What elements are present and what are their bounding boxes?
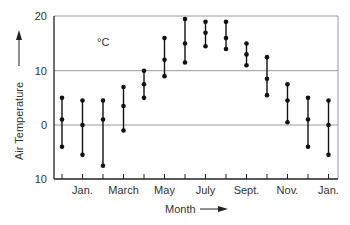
max-point	[121, 85, 126, 90]
range-bar	[101, 98, 106, 168]
mean-point	[306, 117, 311, 122]
min-point	[183, 60, 188, 65]
mean-point	[244, 52, 249, 57]
mean-point	[101, 117, 106, 122]
y-tick-label: 10	[35, 173, 47, 185]
mean-point	[203, 30, 208, 35]
range-bar	[265, 55, 270, 98]
max-point	[60, 96, 65, 101]
max-point	[183, 17, 188, 22]
min-point	[101, 163, 106, 168]
mean-point	[326, 123, 331, 128]
x-axis-title: Month	[165, 203, 228, 215]
x-tick-label: July	[196, 184, 216, 196]
min-point	[142, 96, 147, 101]
max-point	[142, 68, 147, 73]
min-point	[121, 128, 126, 133]
range-bar	[203, 20, 208, 49]
max-point	[224, 20, 229, 25]
unit-label: °C	[97, 36, 109, 48]
x-axis-ticks: Jan.MarchMayJulySept.Nov.Jan.	[62, 174, 339, 196]
x-tick-label: March	[108, 184, 139, 196]
range-bar	[80, 98, 85, 157]
gridlines	[54, 71, 338, 125]
y-axis-ticks: 2010010	[35, 10, 47, 185]
x-axis-label: Month	[165, 203, 196, 215]
max-point	[285, 82, 290, 87]
mean-point	[80, 123, 85, 128]
mean-point	[224, 36, 229, 41]
range-bar	[162, 36, 167, 79]
min-point	[60, 144, 65, 149]
y-axis-title: Air Temperature	[13, 30, 25, 160]
max-point	[265, 55, 270, 60]
y-tick-label: 10	[35, 65, 47, 77]
mean-point	[265, 77, 270, 82]
air-temperature-chart: 2010010 Jan.MarchMayJulySept.Nov.Jan. °C…	[0, 0, 350, 225]
max-point	[326, 98, 331, 103]
x-tick-label: May	[154, 184, 175, 196]
min-point	[80, 153, 85, 158]
mean-point	[121, 104, 126, 109]
mean-point	[162, 58, 167, 63]
range-bar	[142, 68, 147, 100]
y-tick-label: 20	[35, 10, 47, 22]
mean-point	[183, 41, 188, 46]
max-point	[244, 41, 249, 46]
min-point	[306, 144, 311, 149]
range-bar	[60, 96, 65, 149]
max-point	[80, 98, 85, 103]
mean-point	[142, 82, 147, 87]
range-bar	[306, 96, 311, 149]
max-point	[306, 96, 311, 101]
y-tick-label: 0	[41, 119, 47, 131]
arrow-up-icon	[16, 30, 22, 40]
range-bar	[121, 85, 126, 133]
x-tick-label: Jan.	[72, 184, 93, 196]
range-bar	[244, 41, 249, 67]
x-tick-label: Sept.	[234, 184, 260, 196]
min-point	[203, 44, 208, 49]
x-tick-label: Nov.	[277, 184, 299, 196]
y-axis-label: Air Temperature	[13, 82, 25, 160]
min-point	[326, 153, 331, 158]
mean-point	[285, 98, 290, 103]
x-tick-label: Jan.	[318, 184, 339, 196]
max-point	[101, 98, 106, 103]
min-point	[224, 47, 229, 52]
max-point	[162, 36, 167, 41]
min-point	[244, 63, 249, 68]
min-point	[265, 93, 270, 98]
max-point	[203, 20, 208, 25]
range-bar	[326, 98, 331, 157]
range-bar	[224, 20, 229, 52]
range-bar	[285, 82, 290, 125]
min-point	[285, 120, 290, 125]
mean-point	[60, 117, 65, 122]
min-point	[162, 74, 167, 79]
range-bar	[183, 17, 188, 65]
arrow-right-icon	[218, 206, 228, 212]
